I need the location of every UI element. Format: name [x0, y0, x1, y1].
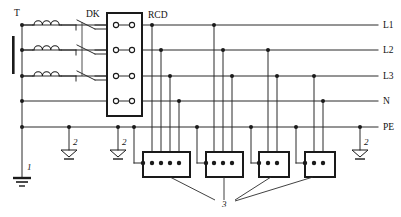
leader-socket3	[235, 177, 271, 200]
coil-icon	[32, 46, 62, 50]
rcd-terminal-out	[129, 47, 134, 52]
label-earth-repeat-3: 2	[364, 137, 369, 147]
junction-dot	[249, 125, 253, 129]
coil-icon	[32, 21, 62, 25]
socket-pin	[168, 161, 172, 165]
label-rail-n: N	[383, 96, 390, 106]
socket-body[interactable]	[259, 152, 289, 177]
junction-dot	[67, 125, 71, 129]
label-rail-l2: L2	[383, 45, 394, 55]
label-rail-l3: L3	[383, 71, 394, 81]
schematic-canvas: T DK RCD L1 L2 L3 N PE 1 2 2 2 3	[0, 0, 401, 217]
socket-pin	[141, 161, 145, 165]
socket-2-feeders	[195, 23, 234, 163]
socket-pin	[257, 161, 261, 165]
junction-dot	[168, 74, 172, 78]
socket-callout-leaders	[170, 177, 313, 201]
junction-dot	[230, 74, 234, 78]
socket-4-feeders	[294, 74, 325, 163]
junction-dot	[132, 125, 136, 129]
junction-dot	[195, 125, 199, 129]
junction-dot	[221, 48, 225, 52]
socket-outlet-3[interactable]	[257, 152, 289, 177]
socket-pin	[266, 161, 270, 165]
rcd-terminal-out	[129, 73, 134, 78]
junction-dot	[312, 74, 316, 78]
socket-outlet-2[interactable]	[204, 152, 243, 177]
socket-body[interactable]	[305, 152, 335, 177]
socket-pin	[159, 161, 163, 165]
rcd-terminal-out	[129, 22, 134, 27]
socket-outlet-4[interactable]	[303, 152, 335, 177]
rcd-terminal-in	[113, 22, 118, 27]
socket-pin	[177, 161, 181, 165]
transformer-windings	[22, 21, 62, 76]
ground-icon	[110, 150, 126, 157]
junction-dot	[20, 99, 24, 103]
socket-pin	[221, 161, 225, 165]
junction-dot	[321, 99, 325, 103]
label-earth-main: 1	[27, 162, 32, 172]
junction-dot	[177, 99, 181, 103]
rcd-terminal-in	[113, 98, 118, 103]
rcd-terminal-in	[113, 73, 118, 78]
junction-dot	[159, 48, 163, 52]
leader-socket4	[235, 177, 313, 201]
dk-to-rail-links	[95, 25, 107, 76]
label-transformer: T	[14, 8, 20, 18]
label-rcd: RCD	[148, 10, 168, 20]
junction-dot	[150, 23, 154, 27]
ground-icon	[61, 150, 77, 157]
junction-dot	[116, 125, 120, 129]
rcd-terminal-in	[113, 47, 118, 52]
socket-pin	[230, 161, 234, 165]
label-earth-repeat-2: 2	[122, 137, 127, 147]
label-earth-repeat-1: 2	[73, 137, 78, 147]
leader-socket1	[170, 177, 215, 200]
socket-pin	[275, 161, 279, 165]
label-rail-l1: L1	[383, 20, 394, 30]
socket-body[interactable]	[143, 152, 190, 177]
socket-outlet-1[interactable]	[141, 152, 190, 177]
junction-dot	[294, 125, 298, 129]
rcd-device[interactable]	[107, 13, 142, 116]
label-socket-callout: 3	[221, 199, 227, 209]
label-rail-pe: PE	[383, 122, 394, 132]
junction-dot	[266, 48, 270, 52]
ground-icon	[352, 150, 368, 157]
transformer-core-bar	[12, 36, 15, 74]
label-dk: DK	[86, 9, 100, 19]
socket-pin	[312, 161, 316, 165]
socket-pin	[150, 161, 154, 165]
socket-pin	[204, 161, 208, 165]
junction-dot	[212, 23, 216, 27]
socket-pin	[212, 161, 216, 165]
socket-3-feeders	[249, 48, 279, 163]
junction-dot	[275, 74, 279, 78]
rcd-terminal-out	[129, 98, 134, 103]
junction-dot	[358, 125, 362, 129]
coil-icon	[32, 72, 62, 76]
schematic-diagram: T DK RCD L1 L2 L3 N PE 1 2 2 2 3	[0, 0, 401, 217]
earth-electrode-main	[13, 127, 31, 186]
socket-pin	[303, 161, 307, 165]
socket-pin	[321, 161, 325, 165]
